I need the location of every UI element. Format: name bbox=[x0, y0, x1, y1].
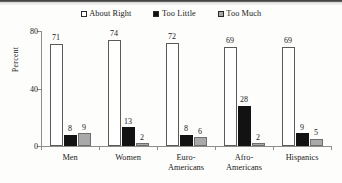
bar-slot: 8 bbox=[180, 31, 193, 146]
bar-value-label: 8 bbox=[184, 125, 188, 133]
bar-group: 69282Afro-Americans bbox=[224, 31, 265, 146]
x-axis-category-label: Hispanics bbox=[286, 153, 319, 163]
bar-slot: 9 bbox=[78, 31, 91, 146]
x-axis-category-line: Americans bbox=[226, 163, 262, 173]
legend-label: About Right bbox=[89, 9, 131, 18]
x-axis-category-line: Women bbox=[115, 153, 141, 163]
x-tick-mark bbox=[157, 146, 158, 150]
y-axis-line bbox=[41, 31, 42, 146]
bar-slot: 69 bbox=[224, 31, 237, 146]
bar-value-label: 8 bbox=[68, 125, 72, 133]
legend-item-0[interactable]: About Right bbox=[81, 9, 132, 18]
x-axis-category-line: Men bbox=[62, 153, 77, 163]
bar-value-label: 2 bbox=[140, 134, 144, 142]
y-tick-label: 40 bbox=[30, 84, 38, 93]
legend-label: Too Little bbox=[162, 9, 196, 18]
bar-slot: 2 bbox=[252, 31, 265, 146]
bar[interactable] bbox=[136, 143, 149, 146]
x-axis-category-line: Afro- bbox=[226, 153, 262, 163]
bar-group-bars: 7189 bbox=[50, 31, 91, 146]
bar-slot: 6 bbox=[194, 31, 207, 146]
bar-slot: 72 bbox=[166, 31, 179, 146]
chart-figure: About RightToo LittleToo Much Percent 04… bbox=[0, 0, 342, 183]
bar-value-label: 2 bbox=[256, 134, 260, 142]
bar[interactable] bbox=[64, 135, 77, 147]
scan-artifact-noise bbox=[0, 3, 342, 5]
bar[interactable] bbox=[310, 139, 323, 146]
x-axis-category-line: Americans bbox=[168, 163, 204, 173]
bar-group-bars: 7286 bbox=[166, 31, 207, 146]
bar[interactable] bbox=[180, 135, 193, 147]
x-axis-category-label: Men bbox=[62, 153, 77, 163]
bar-value-label: 71 bbox=[52, 34, 60, 42]
bar[interactable] bbox=[108, 40, 121, 146]
bar-value-label: 28 bbox=[240, 96, 248, 104]
y-tick-label: 80 bbox=[30, 27, 38, 36]
bar-group: 7286Euro-Americans bbox=[166, 31, 207, 146]
bar[interactable] bbox=[166, 43, 179, 147]
bar-value-label: 9 bbox=[300, 124, 304, 132]
legend-item-2[interactable]: Too Much bbox=[218, 9, 262, 18]
bar-group-bars: 6995 bbox=[282, 31, 323, 146]
bar-value-label: 5 bbox=[314, 129, 318, 137]
x-tick-mark bbox=[273, 146, 274, 150]
x-axis-category-label: Women bbox=[115, 153, 141, 163]
bar-slot: 69 bbox=[282, 31, 295, 146]
bar-group-bars: 69282 bbox=[224, 31, 265, 146]
bar-group: 6995Hispanics bbox=[282, 31, 323, 146]
bar-value-label: 69 bbox=[284, 37, 292, 45]
bar[interactable] bbox=[296, 133, 309, 146]
bar[interactable] bbox=[78, 133, 91, 146]
bar-group-bars: 74132 bbox=[108, 31, 149, 146]
plot-area: 040807189Men74132Women7286Euro-Americans… bbox=[41, 31, 331, 146]
x-tick-mark bbox=[99, 146, 100, 150]
chart-legend: About RightToo LittleToo Much bbox=[0, 9, 342, 18]
bar-value-label: 6 bbox=[198, 128, 202, 136]
bar[interactable] bbox=[238, 106, 251, 146]
bar[interactable] bbox=[122, 127, 135, 146]
legend-swatch-icon bbox=[218, 11, 224, 17]
bar-value-label: 72 bbox=[168, 33, 176, 41]
x-axis-category-line: Hispanics bbox=[286, 153, 319, 163]
bar[interactable] bbox=[224, 47, 237, 146]
bar-slot: 9 bbox=[296, 31, 309, 146]
legend-label: Too Much bbox=[226, 9, 261, 18]
x-axis-category-label: Euro-Americans bbox=[168, 153, 204, 173]
bar[interactable] bbox=[194, 137, 207, 146]
bar-slot: 5 bbox=[310, 31, 323, 146]
y-axis-title: Percent bbox=[11, 47, 20, 72]
x-axis-category-line: Euro- bbox=[168, 153, 204, 163]
x-tick-mark bbox=[331, 146, 332, 150]
bar-slot: 28 bbox=[238, 31, 251, 146]
legend-item-1[interactable]: Too Little bbox=[153, 9, 195, 18]
bar-slot: 13 bbox=[122, 31, 135, 146]
bar-value-label: 9 bbox=[82, 124, 86, 132]
bar-group: 7189Men bbox=[50, 31, 91, 146]
bar[interactable] bbox=[252, 143, 265, 146]
bar-slot: 71 bbox=[50, 31, 63, 146]
x-tick-mark bbox=[215, 146, 216, 150]
x-axis-line bbox=[41, 146, 331, 147]
bar-slot: 74 bbox=[108, 31, 121, 146]
x-tick-mark bbox=[41, 146, 42, 150]
bar[interactable] bbox=[282, 47, 295, 146]
x-axis-category-label: Afro-Americans bbox=[226, 153, 262, 173]
legend-swatch-icon bbox=[153, 11, 159, 17]
bar[interactable] bbox=[50, 44, 63, 146]
bar-value-label: 69 bbox=[226, 37, 234, 45]
bar-group: 74132Women bbox=[108, 31, 149, 146]
legend-swatch-icon bbox=[81, 11, 87, 17]
bar-value-label: 13 bbox=[124, 118, 132, 126]
y-tick-label: 0 bbox=[34, 142, 38, 151]
bar-value-label: 74 bbox=[110, 30, 118, 38]
bar-slot: 8 bbox=[64, 31, 77, 146]
bar-slot: 2 bbox=[136, 31, 149, 146]
